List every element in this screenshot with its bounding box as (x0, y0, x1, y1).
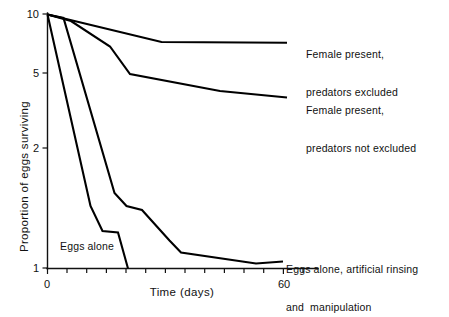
series-label-line-1: Eggs alone, artificial rinsing (286, 263, 418, 276)
curve-eggs-alone-artificial-rinsing (48, 15, 284, 264)
x-axis-title: Time (days) (150, 286, 215, 298)
series-label-eggs-alone-artificial-rinsing: Eggs alone, artificial rinsing and manip… (286, 238, 418, 317)
y-tick-label-10: 10 (27, 8, 39, 20)
series-label-female-predators-not-excluded: Female present, predators not excluded (306, 79, 416, 179)
series-label-line-2: predators not excluded (306, 142, 416, 155)
y-tick-label-2: 2 (33, 142, 39, 154)
series-label-eggs-alone: Eggs alone (60, 240, 114, 252)
curve-eggs-alone (48, 15, 129, 269)
series-label-line-2: and manipulation (286, 301, 418, 314)
x-tick-label-0: 0 (44, 278, 50, 290)
series-label-line-1: Female present, (306, 104, 416, 117)
y-tick-label-5: 5 (33, 67, 39, 79)
y-tick-label-1: 1 (33, 262, 39, 274)
series-label-line-1: Female present, (306, 48, 398, 61)
